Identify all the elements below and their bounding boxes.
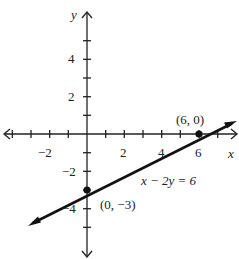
- equation-label: x − 2y = 6: [141, 174, 196, 187]
- tick-label-x-2: 2: [120, 146, 127, 159]
- tick-label-x-4: 4: [158, 146, 165, 159]
- tick-label-y-m4: −4: [62, 202, 76, 215]
- tick-label-x-m2: −2: [38, 146, 52, 159]
- point-6-0: [195, 130, 202, 137]
- tick-label-x-6: 6: [195, 146, 202, 159]
- point-label-6-0: (6, 0): [176, 113, 204, 126]
- x-axis-label: x: [228, 147, 234, 160]
- point-0-m3: [83, 186, 90, 193]
- y-axis-label: y: [71, 8, 77, 21]
- tick-label-y-m2: −2: [62, 165, 76, 178]
- tick-label-y-4: 4: [68, 52, 75, 65]
- tick-label-y-2: 2: [68, 90, 75, 103]
- coordinate-plane: [0, 0, 239, 259]
- point-label-0-m3: (0, −3): [100, 198, 136, 211]
